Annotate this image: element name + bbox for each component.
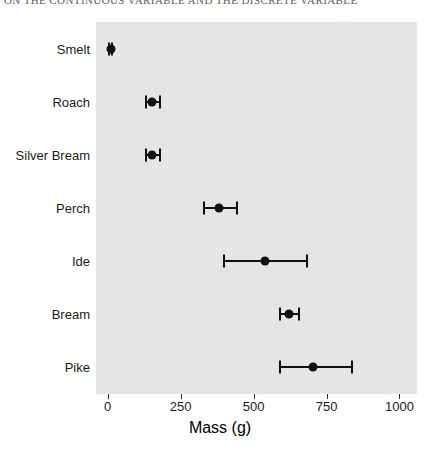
x-tick-label: 1000 — [385, 399, 414, 414]
error-bar-cap-high — [159, 95, 161, 108]
y-axis-label-pike: Pike — [65, 360, 90, 375]
data-point — [148, 97, 157, 106]
data-point — [308, 363, 317, 372]
y-axis-label-silver-bream: Silver Bream — [16, 147, 90, 162]
x-tick-label: 750 — [316, 399, 338, 414]
error-bar-cap-low — [279, 361, 281, 374]
x-axis-title: Mass (g) — [0, 419, 440, 437]
y-axis-label-perch: Perch — [56, 201, 90, 216]
plot-panel — [96, 22, 417, 394]
error-bar-cap-high — [236, 202, 238, 215]
data-point — [148, 150, 157, 159]
data-point — [260, 257, 269, 266]
x-tick-label: 250 — [170, 399, 192, 414]
y-axis-category-labels: SmeltRoachSilver BreamPerchIdeBreamPike — [0, 22, 90, 394]
y-axis-label-roach: Roach — [52, 94, 90, 109]
x-tick-label: 500 — [243, 399, 265, 414]
error-bar-cap-high — [351, 361, 353, 374]
error-bar-cap-low — [203, 202, 205, 215]
y-axis-label-bream: Bream — [52, 307, 90, 322]
data-point — [284, 310, 293, 319]
error-bar-cap-high — [298, 308, 300, 321]
data-point — [215, 204, 224, 213]
x-tick-label: 0 — [104, 399, 111, 414]
figure: SmeltRoachSilver BreamPerchIdeBreamPike … — [0, 0, 440, 461]
error-bar-cap-high — [159, 148, 161, 161]
y-axis-label-smelt: Smelt — [57, 41, 90, 56]
x-axis-tick-labels: 02505007501000 — [0, 399, 440, 417]
y-axis-label-ide: Ide — [72, 254, 90, 269]
error-bar-cap-high — [306, 255, 308, 268]
data-point — [106, 44, 115, 53]
error-bar-cap-low — [223, 255, 225, 268]
error-bar-cap-low — [279, 308, 281, 321]
